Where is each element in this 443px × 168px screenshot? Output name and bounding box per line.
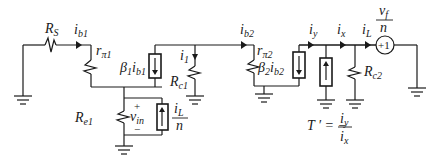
resistor-rc2 — [346, 45, 364, 108]
ib2-label: ib2 — [240, 22, 254, 39]
arrow-down-icon — [152, 70, 158, 75]
ground-symbol-stage2 — [255, 86, 273, 102]
arrow-up-icon — [323, 61, 329, 66]
ib1-arrow-icon — [76, 41, 82, 49]
rs-label: RS — [44, 21, 59, 38]
svg-text:n: n — [176, 118, 183, 133]
rc2-label: Rc2 — [363, 64, 382, 81]
i1-label: i1 — [180, 48, 189, 65]
ix-arrow-icon — [340, 41, 346, 49]
rpi1-label: rπ1 — [96, 43, 111, 60]
iy-arrow-icon — [308, 41, 314, 49]
svg-text:iL: iL — [174, 101, 184, 118]
arrow-up-icon — [159, 107, 165, 112]
beta1-label: β1ib1 — [119, 60, 146, 77]
svg-text:vf: vf — [379, 3, 389, 20]
i1-arrow-icon — [192, 54, 198, 60]
ib1-label: ib1 — [74, 22, 88, 39]
rpi2-label: rπ2 — [257, 43, 272, 60]
current-source-test — [317, 45, 335, 108]
arrow-down-icon — [296, 70, 302, 75]
iy-label: iy — [309, 22, 318, 39]
beta2-label: β2ib2 — [257, 60, 284, 77]
vin-minus-label: − — [134, 123, 140, 135]
circuit-diagram: RS ib1 rπ1 β1ib1 i1 Rc1 — [0, 0, 443, 168]
rc1-label: Rc1 — [169, 74, 188, 91]
il-arrow-icon — [365, 41, 371, 49]
ix-label: ix — [337, 22, 346, 39]
svg-text:iy: iy — [340, 111, 349, 128]
svg-text:+1: +1 — [378, 39, 390, 51]
voltage-source-vf: +1 — [376, 36, 426, 96]
current-source-beta1 — [149, 45, 161, 87]
ib2-arrow-icon — [241, 41, 247, 49]
svg-text:n: n — [380, 20, 387, 35]
il-over-n-label: iL n — [172, 101, 188, 133]
vf-over-n-label: vf n — [376, 3, 393, 35]
re1-label: Re1 — [74, 110, 93, 127]
current-source-beta2 — [293, 45, 305, 86]
source-ground-branch — [14, 45, 32, 104]
ground-symbol — [14, 96, 32, 104]
il-label: iL — [362, 22, 372, 39]
loop-gain-formula: T ′ = − iy ix — [307, 111, 352, 146]
